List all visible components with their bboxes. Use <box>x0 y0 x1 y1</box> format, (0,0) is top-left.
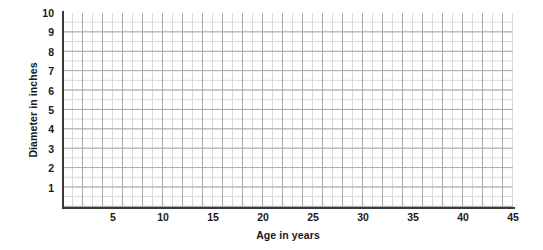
x-tick-label-30: 30 <box>357 211 369 223</box>
x-axis-line <box>62 207 515 209</box>
y-tick-label-2: 2 <box>48 162 54 174</box>
y-tick-label-6: 6 <box>48 85 54 97</box>
x-tick-label-35: 35 <box>407 211 419 223</box>
y-tick-label-4: 4 <box>48 123 54 135</box>
y-axis-line <box>62 11 64 209</box>
y-tick-label-1: 1 <box>48 182 54 194</box>
y-tick-label-7: 7 <box>48 65 54 77</box>
x-tick-label-15: 15 <box>207 211 219 223</box>
y-tick-label-8: 8 <box>48 46 54 58</box>
minor-gridlines <box>63 13 513 207</box>
y-tick-label-9: 9 <box>48 26 54 38</box>
y-tick-label-5: 5 <box>48 104 54 116</box>
x-tick-label-20: 20 <box>257 211 269 223</box>
plot-area <box>63 13 513 207</box>
major-gridlines <box>63 13 513 207</box>
y-axis-title: Diameter in inches <box>27 62 39 157</box>
chart-figure: Diameter in inches 10 9 8 7 6 5 4 3 2 1 … <box>0 0 543 250</box>
x-tick-label-10: 10 <box>157 211 169 223</box>
x-tick-label-25: 25 <box>307 211 319 223</box>
x-tick-label-45: 45 <box>507 211 519 223</box>
y-tick-label-3: 3 <box>48 143 54 155</box>
x-tick-label-40: 40 <box>457 211 469 223</box>
y-tick-label-10: 10 <box>42 7 54 19</box>
x-axis-title: Age in years <box>256 229 320 241</box>
x-tick-label-5: 5 <box>110 211 116 223</box>
